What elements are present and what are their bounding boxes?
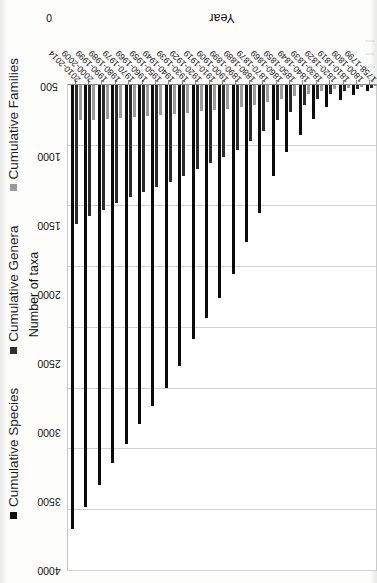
bar-group — [162, 84, 175, 570]
bar-cumulative-species — [151, 84, 154, 406]
bar-cumulative-species — [98, 84, 101, 485]
bar-group — [229, 84, 242, 570]
bar-group — [242, 84, 255, 570]
bar-cumulative-species — [165, 84, 168, 388]
bar-cumulative-genera — [222, 84, 225, 157]
bar-cumulative-species — [258, 84, 261, 213]
bar-cumulative-species — [125, 84, 128, 444]
legend-item-cumulative-species: Cumulative Species — [6, 388, 21, 519]
value-axis-tick-4000: 4000 — [37, 565, 60, 577]
bar-group — [255, 84, 268, 570]
bar-cumulative-genera — [102, 84, 105, 210]
bar-cumulative-species — [339, 84, 342, 100]
legend-item-cumulative-genera: Cumulative Genera — [6, 225, 21, 353]
gridline-4000 — [68, 570, 376, 571]
bar-cumulative-genera — [262, 84, 265, 131]
bar-group — [189, 84, 202, 570]
bar-cumulative-genera — [88, 84, 91, 216]
bar-cumulative-genera — [155, 84, 158, 187]
plot-area-wrapper: Number of taxa 0500100015002000250030003… — [26, 0, 377, 583]
bar-cumulative-species — [245, 84, 248, 242]
bar-cumulative-species — [71, 84, 74, 529]
bar-cumulative-species — [192, 84, 195, 339]
legend-swatch-icon-genera — [10, 347, 17, 354]
bar-group — [148, 84, 161, 570]
bar-group — [282, 84, 295, 570]
bar-chart: Cumulative Species Cumulative Genera Cum… — [0, 0, 377, 583]
value-axis-tick-2000: 2000 — [37, 289, 60, 301]
legend-item-cumulative-families: Cumulative Families — [6, 58, 21, 192]
value-axis-tick-2500: 2500 — [37, 358, 60, 370]
bar-cumulative-genera — [142, 84, 145, 192]
bar-cumulative-species — [272, 84, 275, 176]
value-axis-tick-500: 500 — [40, 81, 58, 93]
bar-cumulative-species — [352, 84, 355, 95]
bar-cumulative-genera — [129, 84, 132, 197]
bar-cumulative-genera — [182, 84, 185, 176]
bar-cumulative-genera — [169, 84, 172, 182]
bar-cumulative-genera — [343, 84, 346, 91]
category-axis-title: Year — [209, 12, 234, 26]
bar-group — [349, 84, 362, 570]
legend-label-cumulative-families: Cumulative Families — [6, 58, 21, 180]
bar-group — [122, 84, 135, 570]
bar-cumulative-genera — [316, 84, 319, 99]
bar-group — [175, 84, 188, 570]
bar-group — [68, 84, 81, 570]
bar-group — [296, 84, 309, 570]
bar-cumulative-species — [312, 84, 315, 119]
plot-row: Year 2010-20142000-20091990-19991980-198… — [67, 0, 377, 583]
bar-group — [81, 84, 94, 570]
bar-cumulative-species — [218, 84, 221, 298]
bar-cumulative-genera — [329, 84, 332, 94]
bar-group — [363, 84, 376, 570]
bar-cumulative-species — [299, 84, 302, 135]
bar-group — [269, 84, 282, 570]
plot-box — [67, 84, 377, 571]
legend-label-cumulative-species: Cumulative Species — [6, 388, 21, 507]
bar-cumulative-species — [325, 84, 328, 107]
chart-legend: Cumulative Species Cumulative Genera Cum… — [0, 0, 26, 583]
value-axis-tick-3500: 3500 — [37, 496, 60, 508]
bar-group — [309, 84, 322, 570]
bar-cumulative-species — [205, 84, 208, 318]
value-axis-tick-3000: 3000 — [37, 427, 60, 439]
category-axis: Year 2010-20142000-20091990-19991980-198… — [67, 0, 377, 84]
value-axis-tick-1000: 1000 — [37, 150, 60, 162]
bar-cumulative-species — [138, 84, 141, 424]
bar-cumulative-genera — [303, 84, 306, 105]
bar-group — [108, 84, 121, 570]
bar-group — [215, 84, 228, 570]
bar-cumulative-genera — [289, 84, 292, 112]
bar-cumulative-genera — [115, 84, 118, 203]
value-axis-ticks: 05001000150020002500300035004000 — [43, 18, 67, 571]
legend-swatch-icon-species — [10, 512, 17, 519]
bar-cumulative-species — [178, 84, 181, 366]
legend-swatch-icon-families — [10, 184, 17, 191]
scanned-page: Cumulative Species Cumulative Genera Cum… — [0, 0, 377, 583]
bar-cumulative-species — [111, 84, 114, 463]
bar-cumulative-species — [285, 84, 288, 152]
bar-cumulative-genera — [236, 84, 239, 150]
value-axis-tick-1500: 1500 — [37, 219, 60, 231]
bar-rows — [68, 84, 376, 570]
bar-group — [95, 84, 108, 570]
bar-cumulative-genera — [276, 84, 279, 120]
bar-cumulative-genera — [196, 84, 199, 169]
bar-group — [336, 84, 349, 570]
bar-cumulative-genera — [249, 84, 252, 141]
legend-label-cumulative-genera: Cumulative Genera — [6, 225, 21, 341]
rotated-figure: Cumulative Species Cumulative Genera Cum… — [0, 0, 377, 583]
bar-cumulative-species — [366, 84, 369, 91]
bar-cumulative-genera — [75, 84, 78, 224]
bar-group — [202, 84, 215, 570]
bar-cumulative-species — [84, 84, 87, 507]
bar-group — [135, 84, 148, 570]
bar-group — [322, 84, 335, 570]
bar-cumulative-genera — [209, 84, 212, 163]
bar-cumulative-species — [232, 84, 235, 274]
value-axis-tick-0: 0 — [46, 12, 52, 24]
